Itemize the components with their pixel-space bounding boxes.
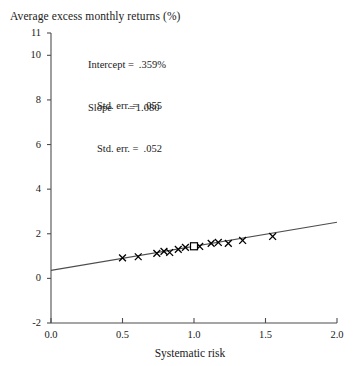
y-tick-label: 4 — [15, 183, 41, 194]
annotation-slope-stderr-row: Std. err. = .052 — [88, 142, 162, 156]
x-tick-label: 2.0 — [320, 329, 354, 340]
y-axis-ticks — [47, 33, 51, 323]
x-tick-label: 1.0 — [177, 329, 211, 340]
annotation-intercept-label: Intercept = — [88, 58, 134, 72]
annotation-slope-equals: = — [129, 101, 135, 115]
x-axis-title: Systematic risk — [110, 347, 270, 360]
portfolio-marker — [135, 253, 142, 260]
x-tick-label: 1.5 — [249, 329, 283, 340]
data-markers — [119, 233, 276, 261]
annotation-slope-label: Slope — [88, 101, 112, 115]
portfolio-marker — [269, 233, 276, 240]
y-tick-label: -2 — [15, 317, 41, 328]
plot-area — [0, 0, 358, 366]
annotation-intercept-row: Intercept = .359% — [88, 58, 166, 72]
y-tick-label: 6 — [15, 139, 41, 150]
x-tick-label: 0.5 — [106, 329, 140, 340]
annotation-slope-stderr-value: .052 — [144, 142, 162, 156]
x-axis-ticks — [51, 318, 337, 323]
chart-title: Average excess monthly returns (%) — [10, 9, 181, 23]
annotation-slope-value: 1.080 — [136, 101, 160, 115]
annotation-slope-row: Slope = 1.080 — [88, 101, 162, 115]
chart-figure: Average excess monthly returns (%) Inter… — [0, 0, 358, 366]
annotation-slope: Slope = 1.080 Std. err. = .052 — [88, 74, 162, 182]
y-tick-label: 2 — [15, 228, 41, 239]
annotation-slope-stderr-label: Std. err. = — [97, 142, 139, 156]
market-portfolio-marker — [191, 243, 198, 250]
y-tick-label: 8 — [15, 94, 41, 105]
x-tick-label: 0.0 — [34, 329, 68, 340]
y-tick-label: 0 — [15, 272, 41, 283]
y-tick-label: 11 — [15, 27, 41, 38]
annotation-intercept-value: .359% — [139, 58, 166, 72]
y-tick-label: 10 — [15, 49, 41, 60]
